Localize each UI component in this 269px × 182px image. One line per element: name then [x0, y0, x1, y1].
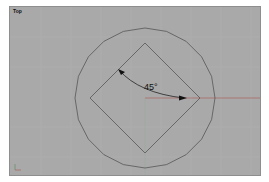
drawing-canvas[interactable]: 45°: [10, 7, 261, 176]
top-viewport[interactable]: Top 45°: [9, 6, 261, 176]
arrowhead-icon: [179, 96, 187, 101]
angle-dimension-text: 45°: [144, 82, 158, 92]
arrowhead-icon: [118, 69, 125, 75]
world-axes-icon: [14, 163, 22, 171]
construction-grid: [10, 7, 261, 176]
